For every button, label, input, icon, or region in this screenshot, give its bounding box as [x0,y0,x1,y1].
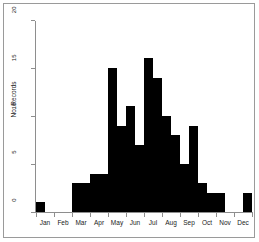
plot-area [36,20,252,212]
histogram-bar [198,183,207,212]
histogram-bar [99,174,108,212]
x-axis-tick [216,213,217,217]
y-axis-tick-label: 5 [11,151,18,179]
x-axis-tick [54,213,55,217]
y-axis-tick-label: 0 [11,199,18,227]
histogram-bar [117,126,126,212]
x-axis-tick [180,213,181,217]
histogram-bar [243,193,252,212]
x-axis-tick [72,213,73,217]
x-axis-tick [144,213,145,217]
y-axis-tick [31,20,35,21]
histogram-bar [108,68,117,212]
y-axis-tick [31,116,35,117]
histogram-bar [171,135,180,212]
y-axis-tick-label: 10 [11,103,18,131]
histogram-bar [162,116,171,212]
x-axis-tick-label: Dec [230,219,256,226]
y-axis-tick [31,68,35,69]
histogram-bar [135,145,144,212]
histogram-bar [72,183,81,212]
x-axis-tick [252,213,253,217]
histogram-bar [126,106,135,212]
x-axis-tick [198,213,199,217]
y-axis-tick [31,212,35,213]
x-axis-tick [234,213,235,217]
histogram-figure: No. Records 20151050 JanFebMarAprMayJunJ… [0,0,259,242]
y-axis-tick-label: 15 [11,55,18,83]
x-axis-tick [36,213,37,217]
histogram-bar [144,58,153,212]
x-axis-tick [90,213,91,217]
histogram-bar [81,183,90,212]
x-axis-tick [126,213,127,217]
x-axis-tick [108,213,109,217]
y-axis-tick-label: 20 [11,7,18,35]
y-axis-tick [31,164,35,165]
histogram-bar [90,174,99,212]
x-axis-tick [162,213,163,217]
histogram-bar [216,193,225,212]
histogram-bar [36,202,45,212]
histogram-bar [180,164,189,212]
histogram-bar [189,126,198,212]
histogram-bar [153,78,162,212]
histogram-bar [207,193,216,212]
